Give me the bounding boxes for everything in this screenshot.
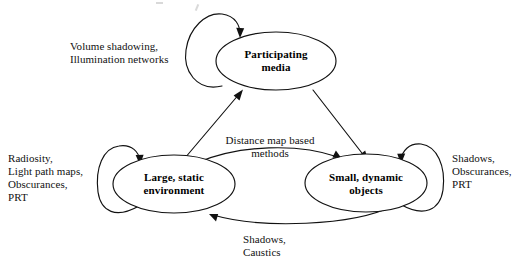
edge-label-self-large-static-environment-line2: Light path maps, [8, 165, 100, 178]
diagram-canvas: Participating media Large, static enviro… [0, 0, 529, 268]
node-large-static-environment[interactable] [113, 155, 235, 213]
edge-label-large-static-to-small-dynamic-line1: Distance map based [205, 134, 335, 147]
edge-label-self-large-static-environment: Radiosity, Light path maps, Obscurances,… [8, 152, 100, 204]
edge-label-self-small-dynamic-objects-line3: PRT [452, 178, 529, 191]
node-small-dynamic-objects[interactable] [305, 154, 427, 212]
edge-label-self-participating-media-line1: Volume shadowing, [70, 40, 195, 53]
node-participating-media[interactable] [216, 32, 336, 90]
edge-label-self-small-dynamic-objects-line1: Shadows, [452, 152, 529, 165]
edge-label-self-small-dynamic-objects: Shadows, Obscurances, PRT [452, 152, 529, 191]
edge-label-large-static-to-small-dynamic: Distance map based methods [205, 134, 335, 160]
edge-label-self-large-static-environment-line4: PRT [8, 191, 100, 204]
edge-label-self-participating-media-line2: Illumination networks [70, 53, 195, 66]
edge-label-self-large-static-environment-line3: Obscurances, [8, 178, 100, 191]
edge-label-self-small-dynamic-objects-line2: Obscurances, [452, 165, 529, 178]
edge-label-small-dynamic-to-large-static-line1: Shadows, [243, 233, 343, 246]
edge-label-self-participating-media: Volume shadowing, Illumination networks [70, 40, 195, 66]
arrowhead-small-dynamic-to-large-static [209, 214, 218, 222]
edge-label-large-static-to-small-dynamic-line2: methods [205, 147, 335, 160]
edge-label-small-dynamic-to-large-static-line2: Caustics [243, 246, 343, 259]
edge-label-small-dynamic-to-large-static: Shadows, Caustics [243, 233, 343, 259]
edge-label-self-large-static-environment-line1: Radiosity, [8, 152, 100, 165]
